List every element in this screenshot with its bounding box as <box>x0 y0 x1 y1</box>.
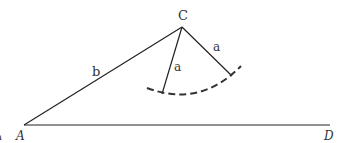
label-a-right: a <box>213 40 220 54</box>
label-D: D <box>323 129 334 143</box>
label-A: A <box>15 129 25 143</box>
diagram-canvas: C A D b a a a <box>0 0 350 143</box>
label-a-left: a <box>174 60 181 74</box>
label-b: b <box>92 64 100 79</box>
edge-mark-left: a <box>0 131 2 142</box>
radius-a-right <box>182 27 232 76</box>
line-AC <box>24 27 182 125</box>
triangle-construction-diagram: C A D b a a a <box>0 0 350 143</box>
label-C: C <box>178 8 188 23</box>
